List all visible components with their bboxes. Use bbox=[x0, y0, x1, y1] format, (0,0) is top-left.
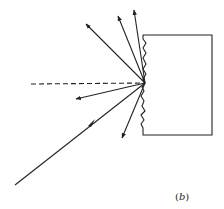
scattered-ray bbox=[122, 83, 145, 138]
scattering-diagram: (b) bbox=[0, 0, 224, 209]
figure-label: (b) bbox=[175, 191, 189, 202]
surface-block bbox=[141, 35, 212, 135]
scattered-ray bbox=[86, 24, 145, 83]
normal-dashed-line bbox=[31, 83, 145, 84]
scattered-ray bbox=[118, 16, 145, 83]
